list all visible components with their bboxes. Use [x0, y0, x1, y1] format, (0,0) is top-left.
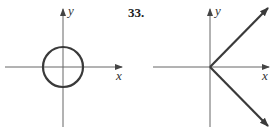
x-axis-label: x	[115, 68, 122, 83]
y-axis-label: y	[213, 3, 221, 18]
left-graph: y x	[5, 3, 122, 127]
problem-number: 33.	[128, 5, 144, 20]
y-axis-label: y	[66, 3, 74, 18]
lower-ray	[210, 67, 268, 126]
x-axis-label: x	[261, 68, 268, 83]
right-graph: y x	[153, 3, 269, 127]
figure-canvas: y x 33. y x	[0, 0, 277, 134]
